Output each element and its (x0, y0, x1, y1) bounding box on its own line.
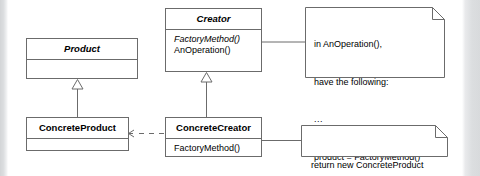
connector-creates-dependency (129, 130, 165, 137)
class-members-concreteproduct (27, 139, 128, 153)
member-concrete-factorymethod: FactoryMethod() (174, 143, 253, 155)
class-box-concretecreator[interactable]: ConcreteCreator FactoryMethod() (165, 117, 262, 157)
member-anoperation: AnOperation() (174, 45, 253, 57)
class-box-creator[interactable]: Creator FactoryMethod() AnOperation() (165, 8, 262, 72)
class-name-creator: Creator (166, 9, 261, 30)
connector-creator-generalization (201, 73, 212, 118)
connector-product-generalization (72, 80, 83, 118)
note-return-new-concreteproduct[interactable]: return new ConcreteProduct (301, 125, 448, 157)
note-line-3: ... (314, 113, 437, 126)
scan-edge-band-left (0, 0, 8, 176)
class-name-product: Product (27, 39, 137, 60)
note-line-1: return new ConcreteProduct (311, 159, 440, 172)
class-members-creator: FactoryMethod() AnOperation() (166, 30, 261, 61)
uml-diagram-canvas: Product Creator FactoryMethod() AnOperat… (0, 0, 480, 176)
class-members-concretecreator: FactoryMethod() (166, 139, 261, 159)
scan-edge-band-right (462, 0, 480, 176)
class-box-concreteproduct[interactable]: ConcreteProduct (26, 117, 129, 151)
note-an-operation[interactable]: in AnOperation(), have the following: ..… (305, 7, 445, 78)
class-box-product[interactable]: Product (26, 38, 138, 79)
note-return-text: return new ConcreteProduct (301, 125, 448, 176)
member-factorymethod: FactoryMethod() (174, 34, 253, 46)
class-name-concretecreator: ConcreteCreator (166, 118, 261, 139)
class-members-product (27, 60, 137, 80)
class-name-concreteproduct: ConcreteProduct (27, 118, 128, 139)
note-line-2: have the following: (314, 76, 437, 89)
note-line-1: in AnOperation(), (314, 38, 437, 51)
